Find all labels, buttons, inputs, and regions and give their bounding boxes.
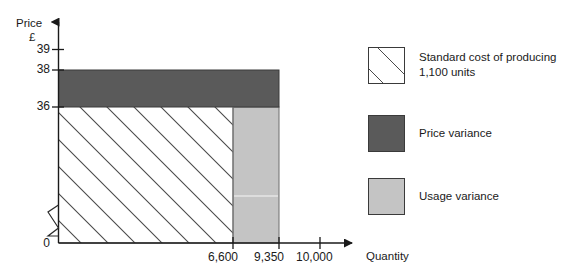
legend-label-price-variance: Price variance bbox=[419, 127, 492, 141]
x-tick-label-9350: 9,350 bbox=[254, 250, 284, 264]
legend-label-standard-cost-line1: Standard cost of producing bbox=[419, 51, 556, 65]
legend-swatch-usage-variance bbox=[369, 179, 405, 215]
y-axis-break-symbol bbox=[48, 205, 59, 236]
region-price-variance bbox=[59, 70, 280, 107]
legend-swatch-standard-cost bbox=[369, 48, 405, 84]
y-tick-label-39: 39 bbox=[26, 42, 50, 56]
legend-swatch-price-variance bbox=[369, 116, 405, 152]
x-tick-label-10000: 10,000 bbox=[296, 250, 333, 264]
legend-label-usage-variance: Usage variance bbox=[419, 190, 499, 204]
region-usage-variance bbox=[233, 107, 279, 243]
x-axis-title: Quantity bbox=[366, 250, 409, 264]
legend-label-standard-cost-line2: 1,100 units bbox=[419, 66, 475, 80]
variance-analysis-chart: Price £ 39 38 36 0 6,600 9,350 10,000 Qu… bbox=[0, 0, 569, 271]
y-tick-label-0: 0 bbox=[33, 236, 50, 250]
y-axis-title-line1: Price bbox=[16, 17, 42, 31]
y-tick-label-36: 36 bbox=[26, 99, 50, 113]
x-tick-label-6600: 6,600 bbox=[208, 250, 238, 264]
region-standard-cost bbox=[59, 107, 234, 243]
y-tick-label-38: 38 bbox=[26, 62, 50, 76]
